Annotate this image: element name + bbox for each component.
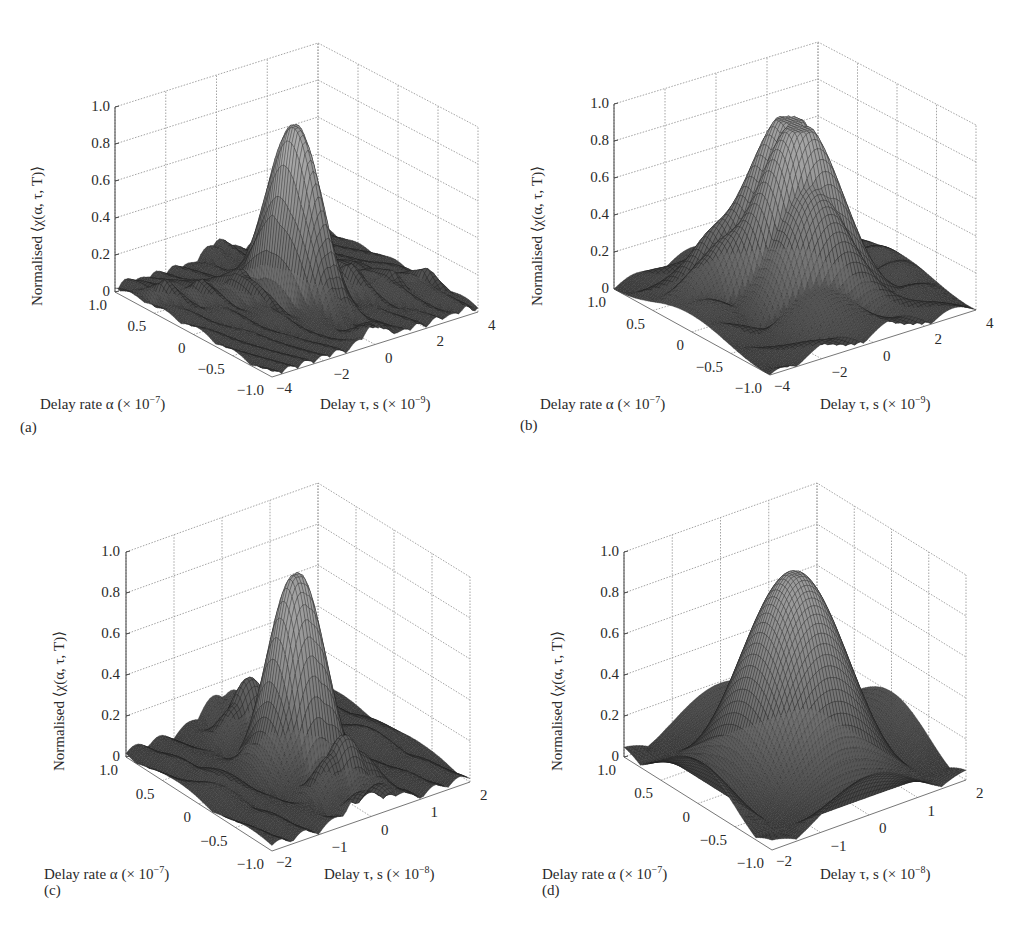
tau-tick-4: 4: [986, 316, 994, 331]
alpha-tick-−1.0: −1.0: [204, 857, 264, 872]
tau-tick-0: 0: [883, 349, 891, 364]
z-tick-0.8: 0.8: [60, 585, 120, 600]
alpha-axis-label: Delay rate α (× 10−7): [540, 397, 665, 412]
tau-tick-1: 1: [431, 805, 439, 820]
z-tick-0.8: 0.8: [50, 136, 110, 151]
tau-tick-0: 0: [381, 823, 389, 838]
alpha-tick-0: 0: [624, 338, 684, 353]
tau-tick-−2: −2: [276, 855, 292, 870]
surface-mesh: [624, 571, 966, 841]
tau-tick-−2: −2: [776, 854, 792, 869]
tau-tick-−4: −4: [774, 379, 790, 394]
alpha-tick-0: 0: [126, 341, 186, 356]
tau-tick-−4: −4: [276, 381, 292, 396]
surface-mesh: [115, 125, 478, 374]
alpha-axis-label: Delay rate α (× 10−7): [40, 397, 165, 412]
panel-label: (b): [520, 418, 538, 433]
surface-plot-b: [614, 42, 976, 375]
alpha-tick-1.0: 1.0: [58, 763, 118, 778]
z-axis-label: Normalised ⟨χ(α, τ, T)⟩: [30, 166, 45, 306]
alpha-tick-1.0: 1.0: [47, 298, 107, 313]
tau-tick-2: 2: [976, 786, 984, 801]
z-tick-0.4: 0.4: [549, 207, 609, 222]
alpha-axis-label: Delay rate α (× 10−7): [44, 867, 169, 882]
tau-tick-2: 2: [437, 334, 445, 349]
tau-axis-label: Delay τ, s (× 10−8): [820, 867, 931, 882]
alpha-tick-−1.0: −1.0: [204, 383, 264, 398]
alpha-tick-0: 0: [630, 810, 690, 825]
tau-tick-2: 2: [935, 332, 943, 347]
tau-axis-label: Delay τ, s (× 10−9): [820, 397, 931, 412]
alpha-tick-0.5: 0.5: [593, 786, 653, 801]
alpha-tick-1.0: 1.0: [546, 295, 606, 310]
tau-tick-−1: −1: [332, 840, 348, 855]
surface-plot-d: [624, 483, 966, 850]
surface-plot-a: [115, 43, 478, 377]
alpha-tick-−1.0: −1.0: [702, 381, 762, 396]
z-tick-0.6: 0.6: [559, 626, 619, 641]
z-tick-0.2: 0.2: [60, 708, 120, 723]
z-tick-0.4: 0.4: [50, 210, 110, 225]
alpha-tick-−0.5: −0.5: [663, 360, 723, 375]
tau-axis-label: Delay τ, s (× 10−9): [320, 397, 431, 412]
z-tick-0.6: 0.6: [60, 626, 120, 641]
alpha-tick-0.5: 0.5: [86, 319, 146, 334]
z-tick-1.0: 1.0: [559, 544, 619, 559]
alpha-tick-1.0: 1.0: [556, 763, 616, 778]
z-tick-0.2: 0.2: [549, 244, 609, 259]
tau-tick-4: 4: [488, 318, 496, 333]
alpha-tick-−0.5: −0.5: [168, 834, 228, 849]
tau-tick-0: 0: [385, 351, 393, 366]
alpha-tick-0.5: 0.5: [95, 787, 155, 802]
z-tick-1.0: 1.0: [549, 96, 609, 111]
tau-tick-0: 0: [879, 821, 887, 836]
z-tick-0.6: 0.6: [50, 173, 110, 188]
surface-mesh: [614, 116, 976, 375]
z-tick-0.2: 0.2: [559, 708, 619, 723]
z-tick-0.6: 0.6: [549, 170, 609, 185]
alpha-axis-label: Delay rate α (× 10−7): [542, 867, 667, 882]
surface-plot-c: [126, 483, 470, 851]
panel-label: (c): [44, 883, 61, 898]
z-tick-0.8: 0.8: [549, 133, 609, 148]
z-tick-0.4: 0.4: [559, 667, 619, 682]
alpha-tick-0: 0: [131, 810, 191, 825]
alpha-tick-−0.5: −0.5: [667, 833, 727, 848]
panel-label: (a): [20, 420, 37, 435]
z-tick-0.2: 0.2: [50, 247, 110, 262]
z-axis-label: Normalised ⟨χ(α, τ, T)⟩: [530, 166, 545, 306]
z-tick-0.8: 0.8: [559, 585, 619, 600]
tau-tick-−2: −2: [832, 365, 848, 380]
alpha-tick-−0.5: −0.5: [165, 362, 225, 377]
tau-tick-1: 1: [928, 804, 936, 819]
tau-tick-2: 2: [480, 788, 488, 803]
tau-axis-label: Delay τ, s (× 10−8): [324, 867, 435, 882]
z-tick-0.4: 0.4: [60, 667, 120, 682]
tau-tick-−2: −2: [334, 367, 350, 382]
alpha-tick-0.5: 0.5: [585, 317, 645, 332]
z-tick-1.0: 1.0: [60, 544, 120, 559]
z-tick-1.0: 1.0: [50, 99, 110, 114]
figure: [0, 0, 1015, 948]
surface-plots-canvas: [0, 0, 1015, 948]
panel-label: (d): [542, 883, 560, 898]
alpha-tick-−1.0: −1.0: [704, 856, 764, 871]
tau-tick-−1: −1: [831, 839, 847, 854]
